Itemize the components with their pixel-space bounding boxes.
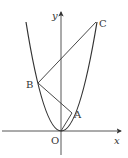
point-b-label: B: [26, 79, 33, 90]
parabola-diagram: y x O A B C: [0, 0, 128, 158]
origin-label: O: [51, 135, 59, 146]
x-axis-label: x: [114, 135, 120, 146]
parabola-curve: [26, 22, 97, 131]
segment-ba: [38, 83, 72, 113]
point-a-label: A: [73, 109, 82, 120]
y-axis-label: y: [51, 10, 58, 21]
point-c-label: C: [99, 18, 107, 29]
